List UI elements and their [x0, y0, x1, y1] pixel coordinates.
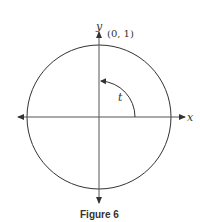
unit-circle-diagram: y x (0, 1) t Figure 6 — [0, 0, 200, 222]
angle-label: t — [118, 91, 123, 104]
y-axis-label: y — [95, 20, 103, 33]
figure-caption: Figure 6 — [80, 209, 119, 220]
point-label: (0, 1) — [107, 28, 134, 39]
x-axis-label: x — [187, 111, 194, 124]
